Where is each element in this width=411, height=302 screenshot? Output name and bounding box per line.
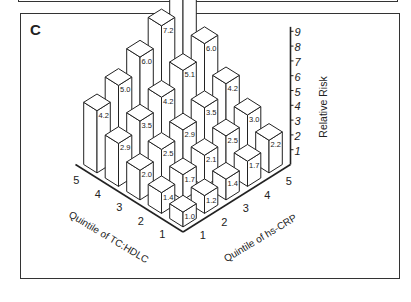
bar-value-label: 1.2 [206,196,216,205]
z-tick-label: 6 [295,71,302,83]
z-tick-label: 3 [295,115,302,127]
bar-value-label: 1.0 [184,212,194,221]
bar-value-label: 1.4 [227,179,237,188]
bar-value-label: 7.2 [163,26,173,35]
z-tick-label: 2 [294,130,301,142]
bar3d-chart: 123456789Relative Risk1234512345Quintile… [0,0,411,302]
bar-value-label: 3.0 [249,115,259,124]
hscrp-tick-label: 1 [200,229,206,241]
tchdlc-tick-label: 3 [116,201,122,213]
bar-value-label: 1.7 [249,161,259,170]
bar-value-label: 2.5 [227,136,237,145]
tchdlc-tick-label: 2 [138,215,144,227]
hscrp-tick-label: 3 [243,202,249,214]
hscrp-tick-label: 2 [221,216,227,228]
tchdlc-tick-label: 1 [159,228,165,240]
bar-value-label: 3.5 [206,108,216,117]
z-tick-label: 8 [295,41,302,53]
tchdlc-tick-label: 5 [73,174,79,186]
bar-value-label: 3.5 [141,121,151,130]
z-axis-label: Relative Risk [317,76,329,138]
bar-left-face [84,102,97,173]
bar-value-label: 6.0 [206,44,216,53]
z-tick-label: 9 [295,26,301,38]
bar-value-label: 2.2 [270,140,280,149]
bar-value-label: 5.1 [184,70,194,79]
hscrp-tick-label: 5 [286,175,292,187]
hscrp-tick-label: 4 [264,189,270,201]
bar-value-label: 2.0 [141,170,151,179]
z-tick-label: 5 [295,86,302,98]
bar-value-label: 4.2 [98,111,108,120]
bar-value-label: 4.2 [163,97,173,106]
bar-left-face [105,135,118,186]
hscrp-axis-title: Quintile of hs-CRP [222,212,299,264]
bar-value-label: 2.9 [120,143,130,152]
z-tick-label: 7 [295,56,302,68]
bar-value-label: 1.4 [163,193,173,202]
bar-value-label: 4.2 [227,84,237,93]
bar-value-label: 6.0 [141,57,151,66]
z-tick-label: 1 [295,145,301,157]
bar-value-label: 2.5 [163,149,173,158]
bar-value-label: 2.9 [184,130,194,139]
z-tick-label: 4 [295,100,301,112]
bar-value-label: 5.0 [120,85,130,94]
bar-value-label: 1.7 [184,175,194,184]
bar-value-label: 2.1 [206,155,216,164]
tchdlc-tick-label: 4 [95,188,101,200]
